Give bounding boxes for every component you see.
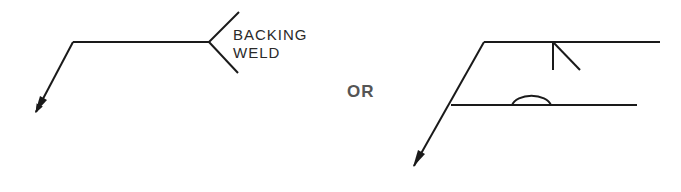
or-separator-label: OR bbox=[347, 82, 375, 102]
backing-weld-semicircle-icon bbox=[512, 96, 551, 105]
left-arrowhead-icon bbox=[35, 96, 47, 113]
left-weld-symbol bbox=[35, 12, 239, 113]
weld-symbol-diagram bbox=[0, 0, 681, 192]
bevel-weld-symbol-icon bbox=[553, 42, 580, 70]
tail-note-weld: WELD bbox=[233, 44, 280, 61]
right-weld-symbol bbox=[413, 42, 660, 167]
right-arrowhead-icon bbox=[413, 150, 425, 167]
tail-note-backing: BACKING bbox=[233, 26, 308, 43]
